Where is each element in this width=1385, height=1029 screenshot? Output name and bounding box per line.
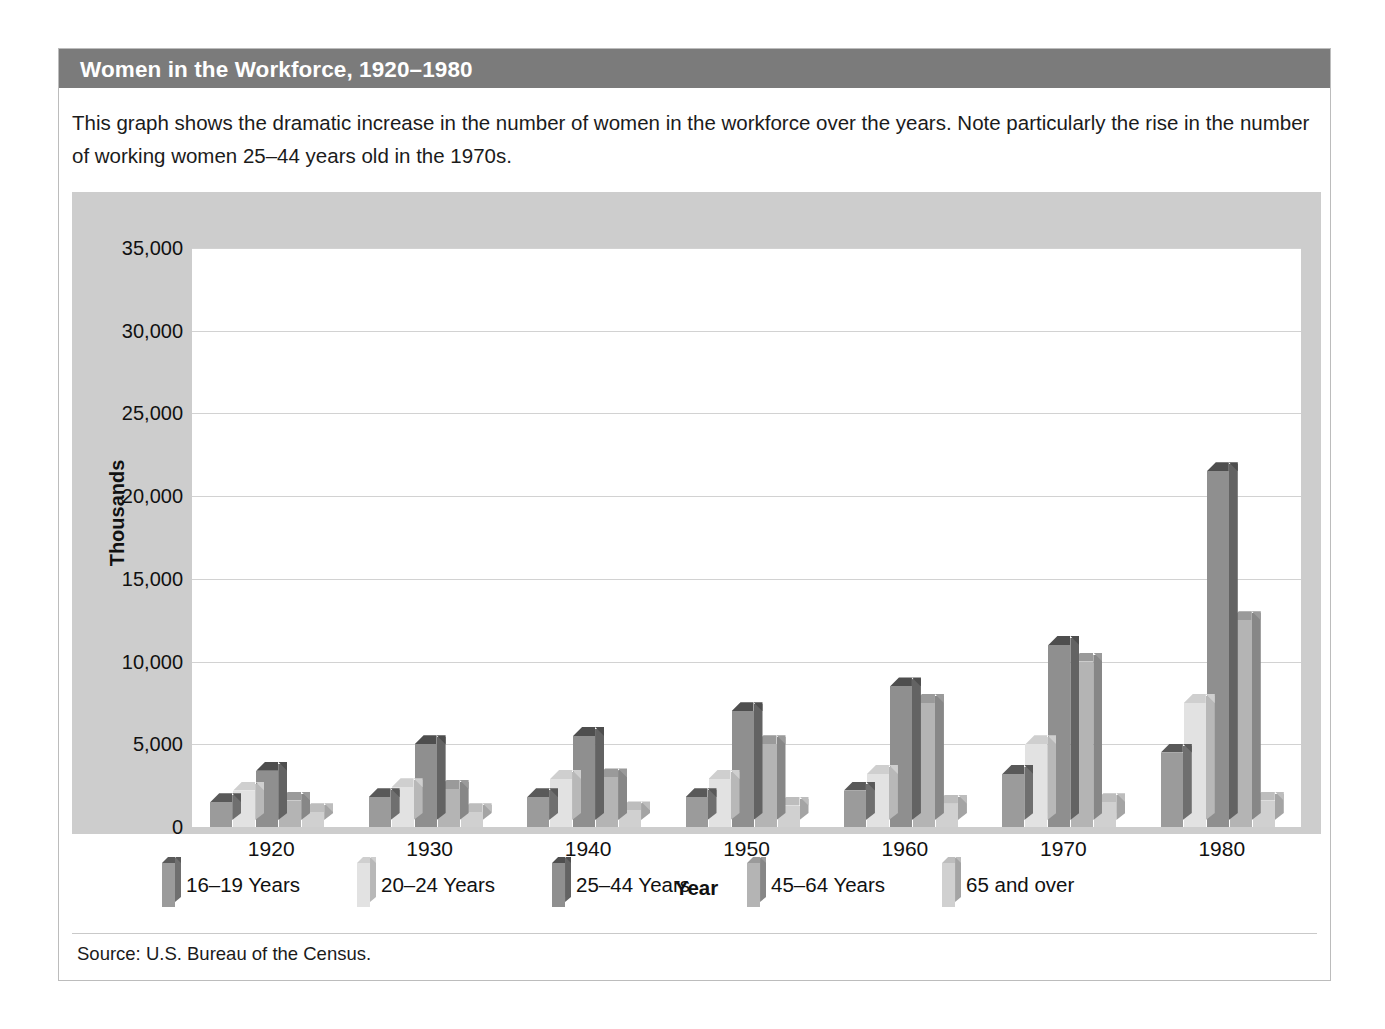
bar-face xyxy=(1002,774,1024,827)
y-axis-title: Thousands xyxy=(106,460,129,567)
legend-item: 16–19 Years xyxy=(162,863,300,907)
legend-swatch-side xyxy=(565,858,571,902)
legend-swatch-side xyxy=(370,858,376,902)
bar-side xyxy=(935,696,944,820)
bar-side xyxy=(595,729,604,820)
legend-item: 65 and over xyxy=(942,863,1074,907)
figure-panel: Women in the Workforce, 1920–1980 This g… xyxy=(58,48,1331,981)
bar-side xyxy=(889,767,898,820)
y-tick-label: 35,000 xyxy=(122,237,183,260)
bar-side xyxy=(777,737,786,820)
bar-face xyxy=(210,802,232,827)
bar-side xyxy=(1183,746,1192,820)
bar-side xyxy=(912,679,921,820)
legend-swatch-face xyxy=(357,863,370,907)
y-tick-label: 15,000 xyxy=(122,567,183,590)
bar-side xyxy=(731,772,740,820)
bar xyxy=(686,797,708,827)
bar xyxy=(527,797,549,827)
source-note: Source: U.S. Bureau of the Census. xyxy=(77,943,371,965)
bar-face xyxy=(686,797,708,827)
bar-side xyxy=(572,772,581,820)
chart-panel: Thousands 05,00010,00015,00020,00025,000… xyxy=(72,192,1321,834)
gridline xyxy=(192,496,1301,497)
gridline xyxy=(192,662,1301,663)
y-tick-label: 20,000 xyxy=(122,485,183,508)
legend-item: 45–64 Years xyxy=(747,863,885,907)
bar-face xyxy=(527,797,549,827)
figure-title: Women in the Workforce, 1920–1980 xyxy=(80,57,473,83)
legend-label: 20–24 Years xyxy=(381,873,495,897)
bar-face xyxy=(844,791,866,827)
bar xyxy=(210,802,232,827)
legend-swatch-face xyxy=(162,863,175,907)
legend-swatch-face xyxy=(747,863,760,907)
y-tick-label: 10,000 xyxy=(122,650,183,673)
legend-swatch-side xyxy=(955,858,961,902)
bar-face xyxy=(1161,753,1183,827)
bar-side xyxy=(278,764,287,820)
y-tick-label: 5,000 xyxy=(133,733,183,756)
bar xyxy=(369,797,391,827)
gridline xyxy=(192,413,1301,414)
bar xyxy=(1161,753,1183,827)
source-divider xyxy=(72,933,1317,934)
bar xyxy=(1002,774,1024,827)
gridline xyxy=(192,248,1301,249)
legend-swatch-face xyxy=(552,863,565,907)
chart-legend: 16–19 Years20–24 Years25–44 Years45–64 Y… xyxy=(72,849,1317,921)
legend-label: 65 and over xyxy=(966,873,1074,897)
legend-label: 16–19 Years xyxy=(186,873,300,897)
bar-side xyxy=(1252,613,1261,820)
bar-side xyxy=(1206,696,1215,820)
bar-side xyxy=(437,737,446,820)
legend-label: 25–44 Years xyxy=(576,873,690,897)
legend-swatch-face xyxy=(942,863,955,907)
bar-side xyxy=(1093,655,1102,820)
bar-side xyxy=(414,780,423,820)
y-tick-label: 30,000 xyxy=(122,319,183,342)
gridline xyxy=(192,579,1301,580)
bar-side xyxy=(1229,464,1238,820)
legend-swatch-side xyxy=(760,858,766,902)
figure-caption: This graph shows the dramatic increase i… xyxy=(72,106,1317,172)
legend-swatch xyxy=(552,863,565,907)
bar-side xyxy=(618,770,627,820)
legend-swatch xyxy=(357,863,370,907)
figure-title-bar: Women in the Workforce, 1920–1980 xyxy=(59,49,1330,88)
y-tick-label: 0 xyxy=(172,816,183,839)
bar-side xyxy=(1047,737,1056,820)
legend-label: 45–64 Years xyxy=(771,873,885,897)
legend-swatch xyxy=(162,863,175,907)
gridline xyxy=(192,331,1301,332)
bar xyxy=(844,791,866,827)
legend-swatch xyxy=(942,863,955,907)
legend-swatch xyxy=(747,863,760,907)
y-tick-label: 25,000 xyxy=(122,402,183,425)
bar-side xyxy=(1024,767,1033,820)
legend-swatch-side xyxy=(175,858,181,902)
bar-side xyxy=(1070,638,1079,820)
legend-item: 25–44 Years xyxy=(552,863,690,907)
bar-side xyxy=(754,704,763,820)
legend-item: 20–24 Years xyxy=(357,863,495,907)
bar-face xyxy=(369,797,391,827)
